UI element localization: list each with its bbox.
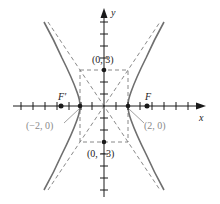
- label-left-focus: F′: [57, 91, 67, 102]
- label-right-focus: F: [144, 91, 152, 102]
- label-right-vertex: (2, 0): [144, 120, 166, 132]
- label-top-covertex: (0, 3): [92, 54, 114, 66]
- x-axis: [13, 102, 200, 110]
- point-top-covertex: [102, 68, 107, 73]
- y-axis-label: y: [110, 7, 116, 18]
- point-left-vertex: [78, 104, 83, 109]
- label-left-vertex: (−2, 0): [26, 120, 53, 132]
- point-left-focus: [59, 104, 64, 109]
- label-bottom-covertex: (0, −3): [87, 148, 114, 160]
- point-right-focus: [145, 104, 150, 109]
- point-bottom-covertex: [102, 140, 107, 145]
- x-axis-label: x: [198, 112, 204, 123]
- point-right-vertex: [126, 104, 131, 109]
- x-axis-arrow-icon: [196, 103, 206, 110]
- y-axis-arrow-icon: [101, 8, 108, 18]
- hyperbola-diagram: y x (0, 3) (0, −3) (−2, 0) (2, 0) F′ F: [0, 0, 220, 204]
